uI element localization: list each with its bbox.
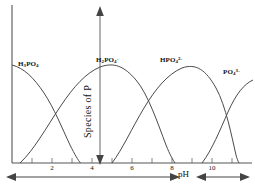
curve-label-po4: PO43-	[223, 68, 240, 76]
curve-label-h2po4: H2PO4-	[96, 56, 118, 64]
x-tick-label-8: 8	[167, 164, 177, 172]
curve-h3po4	[12, 65, 81, 163]
y-axis-title: Species of P	[82, 38, 93, 138]
speciation-plot	[0, 0, 255, 189]
x-tick-label-10: 10	[207, 164, 217, 172]
x-tick-label-2: 2	[47, 164, 57, 172]
curve-label-h3po4: H3PO4	[18, 60, 39, 68]
curve-h2po4	[20, 65, 175, 163]
curve-hpo4	[112, 66, 239, 163]
ph-axis-arrow-left	[6, 173, 180, 181]
x-tick-label-4: 4	[87, 164, 97, 172]
x-tick-label-6: 6	[127, 164, 137, 172]
y-axis-up-arrow-icon	[96, 6, 104, 16]
x-axis-title: pH	[178, 169, 189, 179]
ph-axis-arrow-right	[196, 173, 250, 181]
curve-label-hpo4: HPO42-	[160, 56, 182, 64]
